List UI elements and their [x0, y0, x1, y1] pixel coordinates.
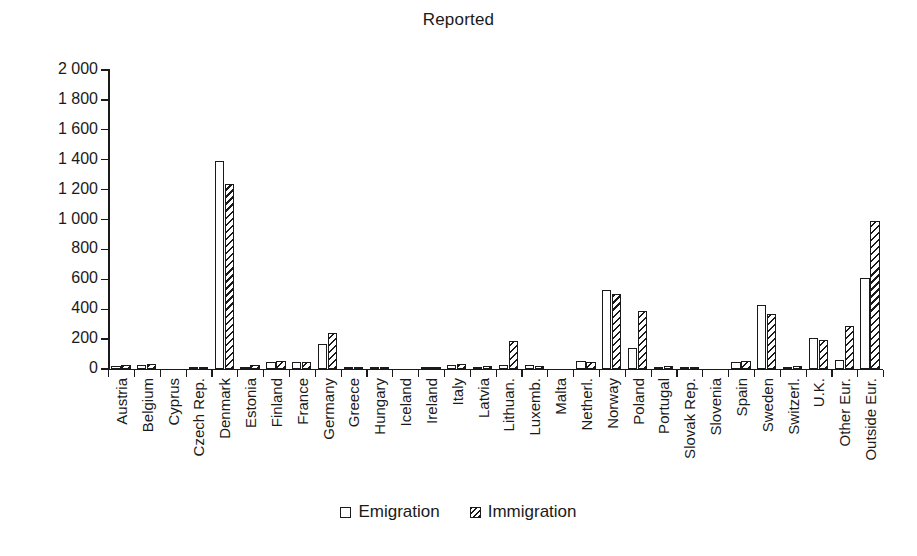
bar-group [702, 70, 728, 369]
x-axis-tick [186, 370, 187, 377]
bar-group [599, 70, 625, 369]
bar-group [444, 70, 470, 369]
x-axis-tick [831, 370, 832, 377]
bar-immigration-norway [612, 294, 621, 369]
y-axis-tick-label: 1 000 [36, 210, 98, 228]
bar-group [392, 70, 418, 369]
x-axis-label-iceland: Iceland [398, 378, 413, 426]
y-axis-tick [101, 368, 108, 369]
x-axis-tick [470, 370, 471, 377]
legend-item-immigration[interactable]: Immigration [470, 502, 577, 522]
y-axis-labels: 02004006008001 0001 2001 4001 6001 8002 … [30, 0, 98, 556]
bar-group [573, 70, 599, 369]
bar-emigration-u-k [809, 338, 818, 369]
x-axis-tick [134, 370, 135, 377]
bar-group [780, 70, 806, 369]
bar-immigration-italy [457, 364, 466, 369]
plot-area [108, 70, 883, 369]
x-axis-label-luxemb: Luxemb. [527, 378, 542, 436]
white-square-icon [340, 507, 351, 518]
x-axis-label-lithuan: Lithuan. [501, 378, 516, 431]
bar-group [806, 70, 832, 369]
bar-immigration-u-k [819, 340, 828, 369]
x-axis-tick [625, 370, 626, 377]
bar-emigration-austria [111, 366, 120, 369]
bar-group [418, 70, 444, 369]
x-axis-label-other-eur: Other Eur. [837, 378, 852, 446]
x-axis-label-sweden: Sweden [759, 378, 774, 432]
x-axis-tick [806, 370, 807, 377]
y-axis-tick [101, 338, 108, 339]
y-axis-tick-label: 0 [36, 359, 98, 377]
bar-emigration-norway [602, 290, 611, 369]
bar-group [496, 70, 522, 369]
legend-item-emigration[interactable]: Emigration [340, 502, 439, 522]
bar-immigration-greece [354, 367, 363, 369]
bar-group [186, 70, 212, 369]
x-axis-tick [160, 370, 161, 377]
bar-immigration-germany [328, 333, 337, 369]
chart-title: Reported [0, 10, 917, 30]
y-axis-tick-label: 800 [36, 239, 98, 257]
bar-emigration-germany [318, 344, 327, 369]
bar-emigration-other-eur [835, 360, 844, 369]
x-axis-label-slovak-rep: Slovak Rep. [682, 378, 697, 459]
legend-label: Immigration [488, 502, 577, 522]
x-axis-label-switzerl: Switzerl. [785, 378, 800, 435]
chart-legend: EmigrationImmigration [0, 502, 917, 522]
y-axis-tick-label: 1 600 [36, 120, 98, 138]
bar-immigration-spain [741, 361, 750, 369]
bar-emigration-outside-eur [860, 278, 869, 369]
x-axis-tick [651, 370, 652, 377]
bar-emigration-estonia [240, 367, 249, 369]
bar-emigration-belgium [137, 365, 146, 369]
y-axis-tick-label: 400 [36, 299, 98, 317]
y-axis-tick [101, 129, 108, 130]
hatched-square-icon [470, 507, 481, 518]
x-axis-tick [780, 370, 781, 377]
x-axis-label-latvia: Latvia [475, 378, 490, 418]
bar-immigration-latvia [483, 366, 492, 369]
x-axis-label-france: France [294, 378, 309, 425]
x-axis-tick [263, 370, 264, 377]
bar-group [237, 70, 263, 369]
bar-emigration-luxemb [525, 365, 534, 369]
bar-immigration-portugal [664, 366, 673, 369]
x-axis-label-ireland: Ireland [423, 378, 438, 424]
x-axis-tick [754, 370, 755, 377]
x-axis-tick [599, 370, 600, 377]
x-axis-label-hungary: Hungary [372, 378, 387, 435]
bar-emigration-denmark [215, 161, 224, 369]
bar-group [754, 70, 780, 369]
bar-emigration-poland [628, 348, 637, 369]
bar-group [625, 70, 651, 369]
bar-group [263, 70, 289, 369]
bar-immigration-finland [276, 361, 285, 369]
bar-emigration-italy [447, 365, 456, 369]
bar-immigration-france [302, 362, 311, 369]
bar-emigration-lithuan [499, 365, 508, 369]
bar-group [341, 70, 367, 369]
x-axis-tick [211, 370, 212, 377]
y-axis-tick [101, 69, 108, 70]
x-axis-label-denmark: Denmark [217, 378, 232, 439]
bar-immigration-belgium [147, 364, 156, 369]
bar-emigration-slovak-rep [680, 367, 689, 369]
x-axis-tick [108, 370, 109, 377]
bar-immigration-austria [121, 365, 130, 369]
bar-group [366, 70, 392, 369]
bar-emigration-czech-rep [189, 367, 198, 369]
bar-group [831, 70, 857, 369]
bar-immigration-denmark [225, 184, 234, 369]
x-axis-label-cyprus: Cyprus [165, 378, 180, 426]
bar-emigration-ireland [421, 367, 430, 369]
bar-emigration-switzerl [783, 367, 792, 369]
x-axis-label-italy: Italy [449, 378, 464, 406]
bar-immigration-czech-rep [199, 367, 208, 369]
x-axis-label-estonia: Estonia [243, 378, 258, 428]
bar-immigration-ireland [431, 367, 440, 369]
x-axis-tick [857, 370, 858, 377]
x-axis-tick [289, 370, 290, 377]
bar-immigration-switzerl [793, 366, 802, 369]
bar-immigration-hungary [380, 367, 389, 369]
